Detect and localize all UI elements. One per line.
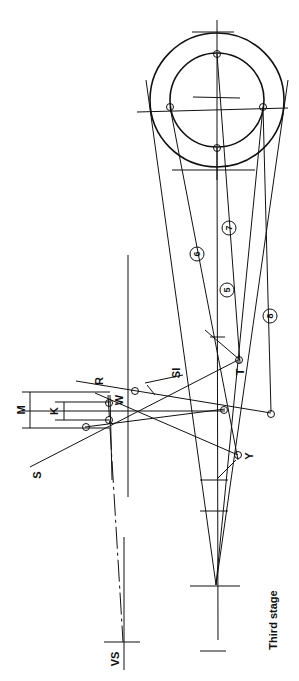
label-w: W bbox=[113, 394, 125, 405]
construction-lines bbox=[22, 54, 288, 670]
label-vs: VS bbox=[109, 652, 121, 667]
svg-text:8: 8 bbox=[265, 313, 275, 318]
svg-text:5: 5 bbox=[222, 287, 232, 292]
wheel bbox=[137, 20, 288, 180]
label-k: K bbox=[48, 407, 60, 415]
label-si: SI bbox=[170, 368, 182, 378]
label-r: R bbox=[93, 377, 105, 385]
label-t: T bbox=[234, 368, 246, 375]
label-y: Y bbox=[243, 452, 255, 460]
third-stage-drawing: M K R W SI S T Y VS Third stage 6 5 7 8 bbox=[0, 0, 299, 681]
label-m: M bbox=[15, 405, 27, 414]
svg-text:6: 6 bbox=[192, 251, 202, 256]
label-s: S bbox=[31, 471, 43, 478]
svg-text:7: 7 bbox=[224, 225, 234, 230]
caption: Third stage bbox=[267, 590, 279, 649]
labels: M K R W SI S T Y VS Third stage bbox=[15, 368, 279, 667]
